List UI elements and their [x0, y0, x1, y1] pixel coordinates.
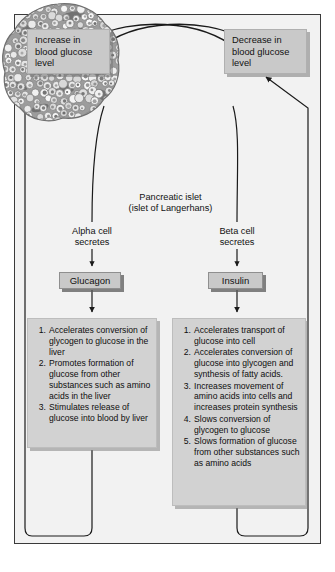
islet-cell-nucleus: [14, 40, 16, 42]
islet-cell-nucleus: [0, 38, 2, 42]
islet-cell: [112, 13, 120, 21]
islet-cell: [0, 98, 2, 105]
islet-cell-nucleus: [7, 60, 10, 63]
islet-cell-nucleus: [21, 68, 24, 71]
effect-number: 2.: [179, 347, 194, 380]
islet-cell-nucleus: [53, 22, 56, 25]
islet-cell: [110, 67, 117, 74]
islet-cell-nucleus: [73, 0, 76, 3]
islet-cell-nucleus: [109, 16, 113, 20]
islet-cell: [87, 0, 96, 6]
islet-cell-nucleus: [121, 67, 125, 71]
islet-cell-nucleus: [118, 85, 121, 88]
islet-cell-nucleus: [55, 84, 58, 87]
islet-cell-nucleus: [15, 17, 18, 20]
islet-cell-nucleus: [2, 105, 5, 108]
effect-text: Increases movement of amino acids into c…: [194, 381, 300, 414]
islet-cell: [59, 79, 68, 88]
islet-cell-nucleus: [100, 105, 102, 107]
islet-cell-nucleus: [62, 111, 65, 114]
islet-cell-nucleus: [51, 90, 54, 93]
islet-cell-nucleus: [16, 45, 20, 49]
islet-cell-nucleus: [93, 99, 97, 103]
islet-cell: [37, 0, 45, 5]
islet-cell-nucleus: [93, 82, 96, 85]
islet-cell-nucleus: [21, 52, 24, 55]
islet-cell-nucleus: [116, 30, 119, 33]
islet-cell: [121, 59, 128, 66]
islet-cell: [122, 121, 129, 128]
islet-cell: [106, 14, 114, 22]
islet-cell: [13, 0, 21, 5]
glucagon-effects-list: 1.Accelerates conversion of glycogen to …: [34, 325, 151, 424]
islet-cell-nucleus: [69, 22, 72, 25]
islet-cell-nucleus: [118, 21, 122, 25]
islet-cell: [61, 5, 68, 12]
effect-item: 2.Promotes formation of glucose from oth…: [34, 358, 151, 402]
islet-cell-nucleus: [65, 0, 68, 2]
islet-cell-nucleus: [34, 16, 37, 19]
islet-cell-nucleus: [81, 107, 83, 109]
effect-text: Promotes formation of glucose from other…: [49, 358, 151, 402]
islet-cell-nucleus: [58, 92, 61, 95]
islet-cell-nucleus: [118, 39, 121, 42]
islet-cell-nucleus: [104, 82, 107, 85]
islet-cell: [118, 96, 124, 102]
islet-cell-nucleus: [82, 121, 85, 124]
islet-cell-nucleus: [43, 91, 47, 95]
pancreatic-islet-diagram: Increase in blood glucose level Decrease…: [0, 0, 335, 572]
islet-cell: [11, 109, 19, 117]
islet-cell: [1, 5, 8, 12]
alpha-cell-line-1: Alpha cell: [56, 226, 128, 237]
insulin-effects-list: 1.Accelerates transport of glucose into …: [179, 325, 300, 469]
islet-cell: [0, 119, 7, 128]
islet-cell-nucleus: [90, 15, 92, 17]
islet-cell-nucleus: [5, 25, 9, 29]
islet-cell-nucleus: [94, 22, 97, 25]
islet-cell: [0, 95, 9, 104]
beta-cell-label: Beta cell secretes: [203, 226, 271, 249]
islet-cell-nucleus: [23, 93, 26, 96]
islet-cell: [114, 87, 122, 95]
islet-cell: [116, 82, 124, 90]
effect-item: 2.Accelerates conversion of glucose into…: [179, 347, 300, 380]
islet-cell-nucleus: [16, 92, 20, 96]
islet-cell-nucleus: [4, 113, 8, 117]
islet-cell-nucleus: [35, 106, 37, 108]
islet-cell: [119, 65, 127, 73]
islet-cell-nucleus: [10, 1, 12, 3]
islet-cell: [0, 22, 1, 30]
islet-cell-nucleus: [66, 91, 68, 93]
islet-cell-nucleus: [9, 107, 12, 110]
islet-cell-nucleus: [40, 121, 43, 124]
islet-cell: [0, 110, 3, 117]
decrease-blood-glucose-box: Decrease in blood glucose level: [224, 29, 307, 74]
islet-cell: [0, 64, 1, 72]
islet-cell-nucleus: [52, 98, 55, 101]
islet-cell-nucleus: [119, 7, 122, 10]
effect-text: Accelerates transport of glucose into ce…: [194, 325, 300, 347]
effect-item: 4.Slows conversion of glycogen to glucos…: [179, 414, 300, 436]
islet-cell-nucleus: [20, 100, 22, 102]
islet-cell-nucleus: [88, 22, 91, 25]
decrease-line-2: blood glucose: [232, 47, 300, 59]
islet-cell: [53, 0, 61, 1]
islet-cell: [30, 120, 37, 127]
islet-cell: [116, 19, 124, 27]
islet-cell: [108, 20, 114, 26]
islet-cell: [0, 89, 4, 96]
effect-item: 1.Accelerates transport of glucose into …: [179, 325, 300, 347]
islet-cell: [26, 94, 34, 102]
islet-cell-nucleus: [103, 112, 106, 115]
islet-cell-nucleus: [65, 16, 68, 19]
islet-cell-nucleus: [42, 15, 46, 19]
effect-item: 5.Slows formation of glucose from other …: [179, 436, 300, 469]
increase-blood-glucose-box: Increase in blood glucose level: [27, 29, 110, 74]
effect-item: 3.Stimulates release of glucose into blo…: [34, 402, 151, 424]
effect-text: Accelerates conversion of glucose into g…: [194, 347, 300, 380]
islet-cell-nucleus: [19, 85, 23, 89]
islet-cell: [7, 105, 15, 113]
decrease-line-3: level: [232, 58, 300, 70]
islet-cell: [110, 113, 117, 120]
islet-cell-nucleus: [106, 75, 109, 78]
